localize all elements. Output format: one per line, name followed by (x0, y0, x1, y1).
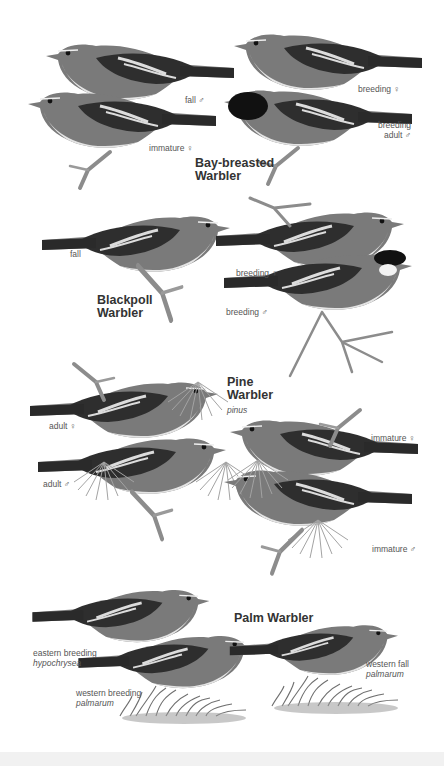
branch-icon (74, 364, 114, 404)
label-bay-breasted-fall-male: fall ♂ (185, 95, 205, 105)
pine-needles-icon (218, 460, 298, 520)
label-palm-eastern-breeding: eastern breeding hypochrysea (33, 648, 97, 668)
pine-immature-male-illustration (218, 464, 414, 534)
species-title-bay-breasted-warbler: Bay-breasted Warbler (195, 157, 274, 183)
blackpoll-fall-illustration (40, 210, 232, 278)
subspecies-pinus: pinus (227, 404, 273, 417)
field-guide-page: fall ♂ immature ♀ breeding ♀ breeding ad… (0, 0, 444, 766)
label-palm-western-fall: western fall palmarum (366, 659, 409, 679)
branch-icon (132, 492, 172, 542)
branch-icon (282, 312, 402, 382)
grass-tuft-icon (268, 676, 408, 722)
label-pine-immature-female: immature ♀ (371, 433, 415, 443)
bay-breasted-breeding-adult-male-illustration (218, 84, 414, 154)
label-pine-adult-male: adult ♂ (43, 479, 70, 489)
branch-icon (264, 530, 304, 580)
species-title-palm-warbler: Palm Warbler (234, 612, 313, 625)
species-title-blackpoll-warbler: Blackpoll Warbler (97, 294, 153, 320)
species-title-pine-warbler: Pine Warbler pinus (227, 376, 273, 417)
label-palm-western-breeding: western breeding palmarum (76, 688, 141, 708)
label-bay-breasted-immature-female: immature ♀ (149, 143, 193, 153)
branch-icon (250, 198, 320, 228)
label-pine-adult-female: adult ♀ (49, 421, 76, 431)
label-blackpoll-breeding-female: breeding ♀ (236, 268, 278, 278)
label-bay-breasted-breeding-adult-male: breeding adult ♂ (378, 120, 411, 140)
pine-adult-male-illustration (36, 432, 228, 502)
label-blackpoll-fall: fall (70, 249, 81, 259)
label-bay-breasted-breeding-female: breeding ♀ (358, 84, 400, 94)
branch-icon (270, 146, 300, 186)
branch-icon (322, 410, 362, 450)
label-pine-immature-male: immature ♂ (372, 544, 416, 554)
page-bottom-edge (0, 752, 444, 766)
label-blackpoll-breeding-male: breeding ♂ (226, 307, 268, 317)
branch-icon (72, 150, 112, 190)
